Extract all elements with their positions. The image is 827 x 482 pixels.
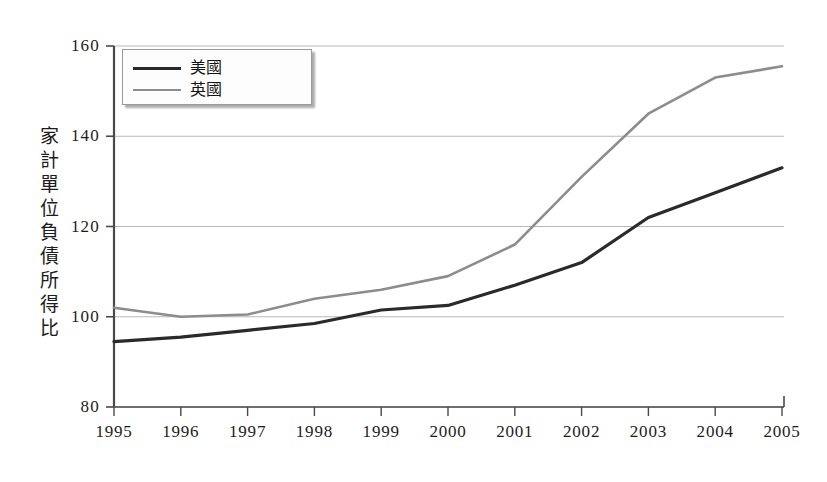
x-tick-marks xyxy=(114,407,782,416)
legend: 美國英國 xyxy=(122,49,312,105)
legend-label: 美國 xyxy=(190,60,222,76)
legend-swatch xyxy=(133,67,181,70)
line-chart: 家 計 單 位 負 債 所 得 比 80100120140160 1995199… xyxy=(0,0,827,482)
legend-item: 英國 xyxy=(133,79,222,101)
y-tick-marks xyxy=(106,46,114,407)
legend-label: 英國 xyxy=(190,82,222,98)
legend-swatch xyxy=(133,89,181,91)
legend-item: 美國 xyxy=(133,57,222,79)
data-series-layer xyxy=(114,66,782,341)
